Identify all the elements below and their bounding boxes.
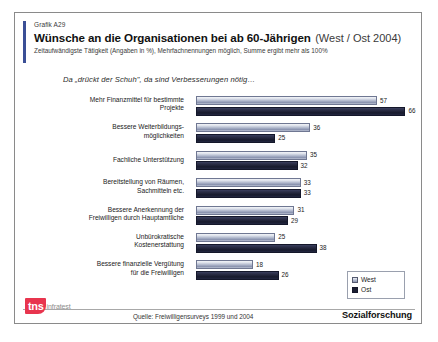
bar-west: [196, 151, 307, 160]
table-row: Bessere Weiterbildungs- möglichkeiten 36…: [15, 120, 423, 147]
category-label-line: Unbürokratische: [15, 233, 184, 241]
bar-ost: [196, 134, 275, 143]
bar-ost-wrap: 38: [196, 244, 418, 253]
infratest-wordmark: infratest: [47, 303, 71, 310]
table-row: Unbürokratische Kostenerstattung 25 38: [15, 230, 423, 257]
legend-item-west: West: [352, 275, 400, 285]
bar-west-wrap: 57: [196, 96, 418, 105]
bar-value-ost: 29: [291, 216, 298, 226]
legend-label-west: West: [361, 275, 376, 285]
category-label-line: Bessere Weiterbildungs-: [15, 123, 184, 131]
bar-value-ost: 25: [278, 133, 285, 143]
chart-plot-area: Mehr Finanzmittel für bestimmte Projekte…: [15, 93, 423, 285]
bar-west-wrap: 33: [196, 178, 418, 187]
bar-west: [196, 206, 294, 215]
title-main-text: Wünsche an die Organisationen bei ab 60-…: [34, 31, 311, 44]
category-label-line: Sachmitteln etc.: [15, 187, 184, 195]
category-label: Fachliche Unterstützung: [15, 156, 190, 164]
bar-group: 35 32: [196, 151, 418, 173]
bar-ost-wrap: 29: [196, 216, 418, 225]
bar-value-west: 36: [313, 123, 320, 133]
chart-kicker: Grafik A29: [34, 20, 415, 29]
category-label-line: für die Freiwilligen: [15, 269, 184, 277]
bar-value-ost: 38: [320, 243, 327, 253]
chart-legend: West Ost: [347, 271, 405, 299]
bar-group: 33 33: [196, 178, 418, 200]
bar-ost: [196, 216, 288, 225]
bar-west-wrap: 18: [196, 260, 418, 269]
category-label-line: Bessere Anerkennung der: [15, 206, 184, 214]
category-label-line: Mehr Finanzmittel für bestimmte: [15, 96, 184, 104]
bar-ost: [196, 189, 301, 198]
category-label-line: möglichkeiten: [15, 132, 184, 140]
category-label: Bessere Anerkennung der Freiwilligen dur…: [15, 206, 190, 223]
bar-ost: [196, 271, 279, 280]
bar-group: 57 66: [196, 96, 418, 118]
source-note: Quelle: Freiwilligensurveys 1999 und 200…: [133, 313, 253, 320]
legend-swatch-icon: [352, 277, 358, 283]
bar-group: 31 29: [196, 206, 418, 228]
chart-intro-text: Da „drückt der Schuh", da sind Verbesser…: [63, 75, 255, 84]
title-accent-bar: [23, 21, 26, 63]
bar-ost: [196, 244, 317, 253]
category-label: Mehr Finanzmittel für bestimmte Projekte: [15, 96, 190, 113]
bar-value-west: 18: [256, 260, 263, 270]
bar-west-wrap: 36: [196, 123, 418, 132]
category-label: Bessere Weiterbildungs- möglichkeiten: [15, 123, 190, 140]
category-label-line: Projekte: [15, 104, 184, 112]
bar-ost-wrap: 33: [196, 189, 418, 198]
category-label-line: Bessere finanzielle Vergütung: [15, 260, 184, 268]
bar-west: [196, 96, 377, 105]
bar-west: [196, 233, 275, 242]
category-label-line: Kostenerstattung: [15, 241, 184, 249]
bar-group: 36 25: [196, 123, 418, 145]
legend-label-ost: Ost: [361, 285, 371, 295]
bar-west: [196, 178, 301, 187]
chart-subtitle: Zeitaufwändigste Tätigkeit (Angaben in %…: [34, 46, 415, 56]
bar-value-west: 25: [278, 232, 285, 242]
page-title: Wünsche an die Organisationen bei ab 60-…: [34, 30, 415, 45]
chart-card: Grafik A29 Wünsche an die Organisationen…: [14, 12, 422, 324]
chart-header: Grafik A29 Wünsche an die Organisationen…: [15, 13, 423, 60]
table-row: Bereitstellung von Räumen, Sachmitteln e…: [15, 175, 423, 202]
bar-value-ost: 33: [304, 188, 311, 198]
bar-west-wrap: 35: [196, 151, 418, 160]
table-row: Mehr Finanzmittel für bestimmte Projekte…: [15, 93, 423, 120]
table-row: Bessere Anerkennung der Freiwilligen dur…: [15, 203, 423, 230]
tns-logo-badge: tns: [25, 298, 46, 314]
bar-ost-wrap: 32: [196, 161, 418, 170]
bar-ost-wrap: 25: [196, 134, 418, 143]
bar-west-wrap: 31: [196, 206, 418, 215]
bar-west-wrap: 25: [196, 233, 418, 242]
bar-value-ost: 66: [408, 106, 415, 116]
bar-value-ost: 26: [282, 270, 289, 280]
category-label-line: Bereitstellung von Räumen,: [15, 178, 184, 186]
bar-value-west: 35: [310, 150, 317, 160]
bar-west: [196, 260, 253, 269]
category-label-line: Freiwilligen durch Hauptamtliche: [15, 214, 184, 222]
tns-infratest-logo: tns infratest: [25, 298, 71, 314]
bar-group: 25 38: [196, 233, 418, 255]
bar-ost: [196, 107, 405, 116]
bar-value-ost: 32: [301, 161, 308, 171]
category-label: Unbürokratische Kostenerstattung: [15, 233, 190, 250]
title-sub-text: (West / Ost 2004): [315, 32, 401, 44]
department-label: Sozialforschung: [342, 310, 412, 320]
bar-west: [196, 123, 310, 132]
bar-ost: [196, 161, 298, 170]
bar-value-west: 33: [304, 178, 311, 188]
bar-value-west: 31: [297, 205, 304, 215]
table-row: Fachliche Unterstützung 35 32: [15, 148, 423, 175]
category-label-line: Fachliche Unterstützung: [15, 156, 184, 164]
category-label: Bereitstellung von Räumen, Sachmitteln e…: [15, 178, 190, 195]
bar-ost-wrap: 66: [196, 107, 418, 116]
legend-item-ost: Ost: [352, 285, 400, 295]
category-label: Bessere finanzielle Vergütung für die Fr…: [15, 260, 190, 277]
legend-swatch-icon: [352, 287, 358, 293]
bar-value-west: 57: [380, 96, 387, 106]
